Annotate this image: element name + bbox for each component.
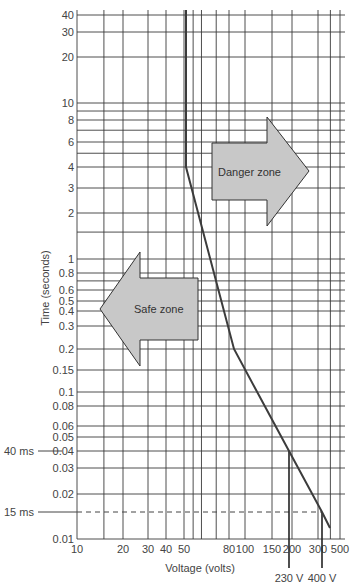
x-tick-label: 500	[331, 543, 349, 555]
annotation-40ms: 40 ms	[4, 445, 34, 457]
x-tick-label: 40	[160, 543, 172, 555]
y-tick-label: 0.05	[53, 431, 74, 443]
y-tick-label: 3	[68, 182, 74, 194]
annotation-230v: 230 V	[275, 572, 304, 584]
x-tick-label: 20	[117, 543, 129, 555]
y-tick-label: 10	[62, 97, 74, 109]
y-tick-label: 0.1	[59, 386, 74, 398]
x-tick-label: 10	[71, 543, 83, 555]
annotation-400v: 400 V	[308, 572, 337, 584]
y-tick-label: 0.08	[53, 400, 74, 412]
y-tick-label: 40	[62, 9, 74, 21]
chart-svg: 403020108643210.80.60.50.40.30.20.150.10…	[0, 0, 357, 587]
y-tick-label: 0.4	[59, 305, 74, 317]
x-tick-labels: 102030405080100150200300500	[71, 543, 349, 555]
y-tick-label: 0.8	[59, 267, 74, 279]
y-tick-label: 0.2	[59, 343, 74, 355]
y-tick-label: 6	[68, 136, 74, 148]
y-tick-label: 20	[62, 51, 74, 63]
danger-zone-label: Danger zone	[218, 166, 281, 178]
grid-lines	[77, 10, 345, 539]
safety-curve	[186, 10, 330, 528]
x-tick-label: 50	[178, 543, 190, 555]
y-axis-title: Time (seconds)	[39, 250, 51, 325]
y-tick-label: 8	[68, 114, 74, 126]
x-tick-label: 300	[309, 543, 327, 555]
safe-zone-label: Safe zone	[134, 303, 184, 315]
y-tick-label: 1	[68, 253, 74, 265]
y-tick-label: 0.03	[53, 462, 74, 474]
y-tick-label: 30	[62, 26, 74, 38]
y-tick-labels: 403020108643210.80.60.50.40.30.20.150.10…	[53, 9, 74, 545]
y-tick-label: 2	[68, 207, 74, 219]
x-tick-label: 150	[263, 543, 281, 555]
x-tick-label: 80	[223, 543, 235, 555]
annotation-15ms: 15 ms	[4, 506, 34, 518]
x-tick-label: 30	[142, 543, 154, 555]
y-tick-label: 0.3	[59, 320, 74, 332]
y-tick-label: 4	[68, 161, 74, 173]
x-axis-title: Voltage (volts)	[165, 562, 235, 574]
x-tick-label: 200	[283, 543, 301, 555]
x-tick-label: 100	[236, 543, 254, 555]
y-tick-label: 0.15	[53, 364, 74, 376]
y-tick-label: 0.02	[53, 488, 74, 500]
